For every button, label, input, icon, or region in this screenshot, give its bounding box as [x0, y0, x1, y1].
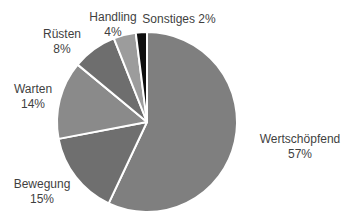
slice-label-wertschoepfend: Wertschöpfend57% — [260, 132, 341, 162]
slice-label-handling: Handling4% — [89, 10, 136, 40]
slice-label-ruesten: Rüsten8% — [43, 27, 81, 57]
slice-label-warten: Warten14% — [14, 82, 52, 112]
slice-label-bewegung: Bewegung15% — [14, 177, 71, 207]
pie-chart: Wertschöpfend57%Bewegung15%Warten14%Rüst… — [0, 0, 341, 221]
slice-label-sonstiges: Sonstiges 2% — [142, 12, 215, 27]
